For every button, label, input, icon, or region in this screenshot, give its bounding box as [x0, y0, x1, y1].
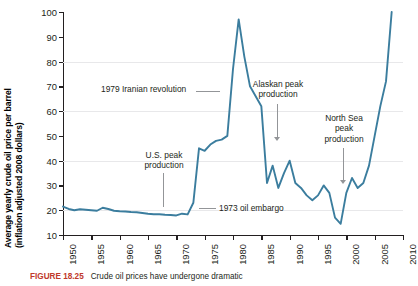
annotation-1973-oil-embargo: 1973 oil embargo — [219, 203, 284, 213]
leader-line-alaskan-peak-production — [277, 104, 278, 138]
x-tick-label-1955: 1955 — [95, 244, 106, 265]
annotation-us-peak-production: U.S. peak production — [133, 150, 195, 171]
x-tick-mark-2010 — [403, 235, 404, 240]
x-tick-mark-1950 — [63, 235, 64, 240]
x-tick-mark-1975 — [205, 235, 206, 240]
x-tick-label-1980: 1980 — [237, 244, 248, 265]
x-tick-label-1960: 1960 — [124, 244, 135, 265]
x-tick-mark-1980 — [233, 235, 234, 240]
x-tick-label-1970: 1970 — [180, 244, 191, 265]
y-tick-label-40: 40 — [47, 155, 57, 166]
x-tick-label-1950: 1950 — [67, 244, 78, 265]
y-tick-label-10: 10 — [47, 230, 57, 241]
arrowhead-north-sea-peak-production — [340, 180, 346, 184]
leader-line-us-peak-production — [163, 173, 164, 207]
x-tick-label-2005: 2005 — [379, 244, 390, 265]
x-tick-mark-1970 — [176, 235, 177, 240]
x-tick-mark-1995 — [318, 235, 319, 240]
x-tick-mark-1955 — [91, 235, 92, 240]
figure-caption-text: Crude oil prices have undergone dramatic — [91, 272, 243, 281]
annotation-iranian-revolution: 1979 Iranian revolution — [101, 84, 186, 94]
annotation-alaskan-peak-production: Alaskan peak production — [245, 79, 311, 100]
x-tick-label-1965: 1965 — [152, 244, 163, 265]
y-tick-label-30: 30 — [47, 180, 57, 191]
y-tick-label-90: 90 — [47, 31, 57, 42]
y-axis-title-line-1: Average yearly crude oil price per barre… — [3, 88, 13, 248]
x-tick-label-1985: 1985 — [265, 244, 276, 265]
x-tick-label-1995: 1995 — [322, 244, 333, 265]
leader-line-north-sea-peak-production — [343, 148, 344, 181]
y-axis-title-line-2: (inflation adjusted 2008 dollars) — [14, 122, 24, 248]
x-tick-mark-1960 — [120, 235, 121, 240]
annotation-north-sea-peak-production: North Sea peak production — [313, 113, 375, 144]
x-tick-mark-1985 — [261, 235, 262, 240]
x-tick-mark-1965 — [148, 235, 149, 240]
x-tick-label-2000: 2000 — [350, 244, 361, 265]
leader-line-iranian-revolution — [196, 91, 220, 92]
y-tick-label-70: 70 — [47, 81, 57, 92]
arrowhead-alaskan-peak-production — [274, 137, 280, 141]
x-tick-mark-2005 — [375, 235, 376, 240]
x-tick-label-2010: 2010 — [407, 244, 418, 265]
y-tick-label-60: 60 — [47, 106, 57, 117]
y-tick-label-100: 100 — [41, 7, 57, 18]
y-tick-label-50: 50 — [47, 130, 57, 141]
x-tick-mark-1990 — [290, 235, 291, 240]
leader-line-1973-oil-embargo — [199, 208, 216, 209]
y-axis-title: Average yearly crude oil price per barre… — [0, 0, 34, 248]
x-tick-label-1975: 1975 — [209, 244, 220, 265]
y-tick-label-80: 80 — [47, 56, 57, 67]
y-tick-label-20: 20 — [47, 205, 57, 216]
figure-caption-number: FIGURE 18.25 — [30, 272, 84, 281]
x-tick-mark-2000 — [346, 235, 347, 240]
figure-caption: FIGURE 18.25Crude oil prices have underg… — [30, 272, 414, 282]
x-tick-label-1990: 1990 — [294, 244, 305, 265]
